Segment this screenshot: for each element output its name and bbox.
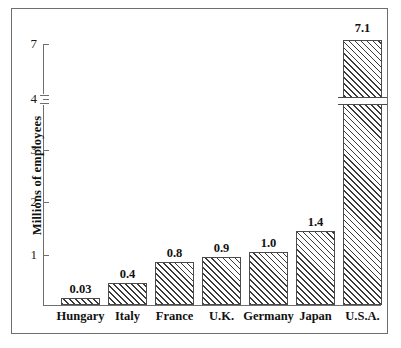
bar-value-germany: 1.0 (239, 237, 298, 250)
bar-hungary[interactable] (61, 298, 100, 305)
bar-japan[interactable] (296, 231, 335, 305)
y-tick-mark-4 (43, 99, 49, 100)
y-tick-mark-7 (43, 44, 49, 45)
bar-value-japan: 1.4 (286, 216, 345, 229)
x-axis-line (43, 305, 381, 306)
bar-value-usa: 7.1 (333, 22, 392, 35)
bar-chart-plot-area: Millions of employees 7 4 3 2 1 0.03 Hun… (0, 0, 401, 348)
bar-italy[interactable] (108, 283, 147, 305)
bar-usa[interactable] (343, 40, 382, 305)
bar-break-usa (338, 97, 387, 105)
bar-uk[interactable] (202, 257, 241, 305)
y-tick-mark-1 (43, 255, 49, 256)
bar-value-italy: 0.4 (98, 268, 157, 281)
y-tick-label-7: 7 (7, 37, 37, 50)
bar-france[interactable] (155, 262, 194, 305)
bar-value-hungary: 0.03 (51, 283, 110, 296)
y-tick-label-3: 3 (7, 143, 37, 156)
y-tick-mark-2 (43, 202, 49, 203)
y-tick-label-1: 1 (7, 248, 37, 261)
y-tick-label-4: 4 (7, 92, 37, 105)
x-label-usa: U.S.A. (333, 310, 392, 323)
bar-germany[interactable] (249, 252, 288, 305)
y-tick-mark-3 (43, 150, 49, 151)
y-tick-label-2: 2 (7, 195, 37, 208)
